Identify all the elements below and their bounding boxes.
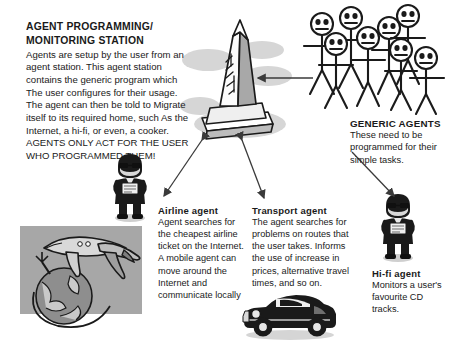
diagram-canvas: AGENT PROGRAMMING/ MONITORING STATION Ag… <box>0 0 456 346</box>
transport-agent-body: The agent searches for problems on route… <box>252 216 354 289</box>
airline-agent-title: Airline agent <box>158 205 244 216</box>
transport-agent-text-block: Transport agent The agent searches for p… <box>252 205 354 289</box>
airline-agent-body: Agent searches for the cheapest airline … <box>158 216 244 301</box>
arrow-station-transport <box>242 140 264 198</box>
generic-agents-text-block: GENERIC AGENTS These need to be programm… <box>350 118 454 166</box>
station-title: AGENT PROGRAMMING/ MONITORING STATION <box>26 20 190 48</box>
generic-agents-title: GENERIC AGENTS <box>350 118 454 129</box>
airline-agent-text-block: Airline agent Agent searches for the che… <box>158 205 244 301</box>
transport-agent-title: Transport agent <box>252 205 354 216</box>
hifi-agent-body: Monitors a user's favourite CD tracks. <box>372 279 452 315</box>
hifi-agent-text-block: Hi-fi agent Monitors a user's favourite … <box>372 268 452 315</box>
hifi-agent-title: Hi-fi agent <box>372 268 452 279</box>
generic-agents-body: These need to be programmed for their si… <box>350 129 454 166</box>
station-body: Agents are setup by the user from an age… <box>26 49 190 163</box>
station-text-block: AGENT PROGRAMMING/ MONITORING STATION Ag… <box>26 20 190 163</box>
